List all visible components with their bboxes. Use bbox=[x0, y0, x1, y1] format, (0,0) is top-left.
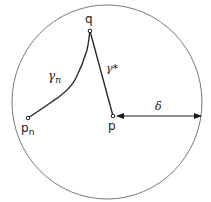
label-delta: δ bbox=[155, 101, 162, 112]
label-p: p bbox=[108, 120, 116, 132]
boundary-circle bbox=[12, 5, 202, 199]
diagram: q p pn γn γ* δ bbox=[0, 0, 211, 202]
point-q-dot bbox=[88, 29, 92, 33]
label-gamma-n-subscript: n bbox=[55, 75, 61, 85]
diagram-canvas bbox=[0, 0, 211, 202]
label-pn: pn bbox=[21, 122, 34, 137]
point-pn-dot bbox=[26, 116, 30, 120]
label-pn-base: p bbox=[21, 121, 29, 135]
point-p-dot bbox=[111, 114, 115, 118]
label-gamma-n: γn bbox=[48, 70, 61, 85]
label-gamma-star: γ* bbox=[106, 63, 118, 74]
label-q: q bbox=[85, 13, 93, 25]
label-pn-subscript: n bbox=[29, 127, 35, 137]
